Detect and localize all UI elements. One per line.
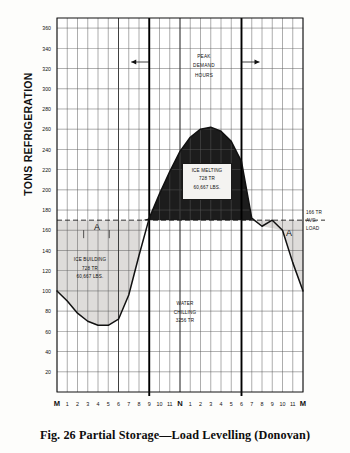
svg-text:260: 260 (42, 126, 51, 132)
svg-text:200: 200 (42, 187, 51, 193)
svg-text:20: 20 (45, 369, 51, 375)
svg-text:5: 5 (107, 401, 110, 407)
peak-demand-line1: PEAK (174, 52, 234, 61)
peak-demand-line3: HOURS (174, 71, 234, 80)
svg-text:40: 40 (45, 349, 51, 355)
svg-text:9: 9 (271, 401, 274, 407)
svg-text:80: 80 (45, 308, 51, 314)
svg-text:3: 3 (86, 401, 89, 407)
svg-text:1: 1 (66, 401, 69, 407)
svg-text:6: 6 (240, 401, 243, 407)
svg-text:2: 2 (199, 401, 202, 407)
figure-partial-storage-load-levelling: 2040608010012014016018020022024026028030… (0, 0, 350, 453)
svg-text:100: 100 (42, 288, 51, 294)
svg-text:180: 180 (42, 207, 51, 213)
region-a-left-label: A (94, 222, 100, 232)
svg-text:10: 10 (157, 401, 163, 407)
svg-text:11: 11 (167, 401, 173, 407)
avg-load-line3: LOAD (306, 225, 350, 233)
svg-text:5: 5 (230, 401, 233, 407)
avg-load-line1: 166 TR (306, 209, 350, 217)
svg-text:300: 300 (42, 86, 51, 92)
figure-caption: Fig. 26 Partial Storage—Load Levelling (… (0, 428, 350, 443)
ice-melting-line2: 728 TR (185, 175, 229, 183)
svg-text:320: 320 (42, 66, 51, 72)
ice-building-line1: ICE BUILDING (62, 256, 118, 265)
svg-text:7: 7 (250, 401, 253, 407)
svg-text:6: 6 (117, 401, 120, 407)
water-chilling-line3: 3256 TR (155, 317, 215, 326)
svg-text:60: 60 (45, 329, 51, 335)
region-a-right-label: A (286, 228, 292, 238)
svg-text:2: 2 (76, 401, 79, 407)
svg-text:360: 360 (42, 25, 51, 31)
avg-load-label: 166 TR AVG. LOAD (306, 209, 350, 234)
svg-text:120: 120 (42, 268, 51, 274)
svg-text:4: 4 (97, 401, 100, 407)
svg-text:N: N (177, 399, 182, 408)
ice-melting-line3: 60,667 LBS. (185, 184, 229, 192)
svg-text:160: 160 (42, 227, 51, 233)
svg-text:M: M (300, 399, 306, 408)
ice-melting-callout: ICE MELTING 728 TR 60,667 LBS. (182, 163, 232, 200)
chart-plot-area: 2040608010012014016018020022024026028030… (0, 0, 350, 410)
ice-melting-line1: ICE MELTING (185, 167, 229, 175)
svg-text:4: 4 (220, 401, 223, 407)
svg-text:1: 1 (189, 401, 192, 407)
peak-demand-line2: DEMAND (174, 61, 234, 70)
water-chilling-line1: WATER (155, 300, 215, 309)
water-chilling-line2: CHILLING (155, 309, 215, 318)
svg-text:11: 11 (290, 401, 296, 407)
avg-load-line2: AVG. (306, 217, 350, 225)
svg-text:M: M (54, 399, 60, 408)
svg-text:280: 280 (42, 106, 51, 112)
svg-text:3: 3 (209, 401, 212, 407)
svg-text:240: 240 (42, 147, 51, 153)
water-chilling-label: WATER CHILLING 3256 TR (155, 300, 215, 326)
ice-building-line3: 60,667 LBS. (62, 273, 118, 282)
y-axis-title: TONS REFRIGERATION (22, 44, 34, 224)
svg-text:220: 220 (42, 167, 51, 173)
ice-building-line2: 728 TR (62, 265, 118, 274)
ice-building-label: ICE BUILDING 728 TR 60,667 LBS. (62, 256, 118, 282)
svg-text:340: 340 (42, 46, 51, 52)
svg-text:10: 10 (280, 401, 286, 407)
svg-text:8: 8 (261, 401, 264, 407)
svg-text:7: 7 (127, 401, 130, 407)
svg-text:140: 140 (42, 248, 51, 254)
peak-demand-label: PEAK DEMAND HOURS (174, 52, 234, 80)
svg-text:9: 9 (148, 401, 151, 407)
svg-text:8: 8 (138, 401, 141, 407)
